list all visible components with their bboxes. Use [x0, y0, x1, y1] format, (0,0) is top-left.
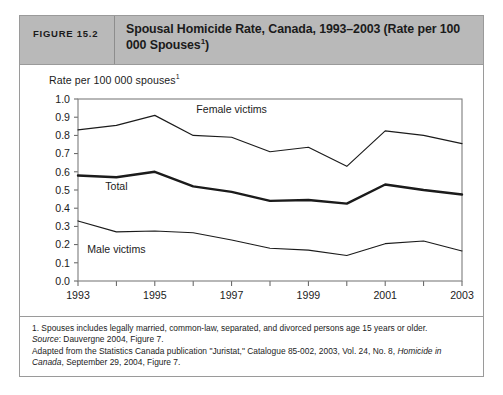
- footnote-source: Source: Dauvergne 2004, Figure 7.: [32, 334, 471, 346]
- y-axis-caption-text: Rate per 100 000 spouses: [49, 74, 176, 86]
- footnote-adapted-prefix: Adapted from the Statistics Canada publi…: [32, 346, 397, 356]
- series-label-total: Total: [105, 180, 127, 192]
- y-axis-caption: Rate per 100 000 spouses1: [49, 74, 180, 86]
- y-axis-tick-label: 0.1: [55, 257, 70, 269]
- footnote-spouses-definition: 1. Spouses includes legally married, com…: [32, 323, 471, 335]
- x-axis-tick-label: 1993: [66, 289, 90, 301]
- figure-header: FIGURE 15.2 Spousal Homicide Rate, Canad…: [20, 16, 483, 65]
- figure-title: Spousal Homicide Rate, Canada, 1993–2003…: [126, 22, 473, 53]
- chart-series-lines: [78, 115, 462, 255]
- y-axis-tick-label: 0.6: [55, 166, 70, 178]
- figure-title-cell: Spousal Homicide Rate, Canada, 1993–2003…: [115, 16, 483, 64]
- footnote-source-label: Source: [32, 334, 59, 344]
- footnote-adapted-suffix: , September 29, 2004, Figure 7.: [61, 357, 180, 367]
- y-axis-tick-label: 0.9: [55, 111, 70, 123]
- y-axis-caption-superscript: 1: [176, 73, 180, 80]
- figure-card: FIGURE 15.2 Spousal Homicide Rate, Canad…: [19, 15, 484, 377]
- figure-title-suffix: ): [205, 38, 209, 52]
- x-axis-tick-labels: 199319951997199920012003: [66, 289, 474, 301]
- series-label-female-victims: Female victims: [196, 103, 267, 115]
- y-axis-tick-label: 0.8: [55, 129, 70, 141]
- figure-number-label: FIGURE 15.2: [33, 28, 98, 39]
- line-chart: 0.00.10.20.30.40.50.60.70.80.91.0 199319…: [34, 91, 474, 311]
- series-label-male-victims: Male victims: [87, 243, 145, 255]
- series-line-female-victims: [78, 115, 462, 166]
- y-axis-tick-label: 0.0: [55, 275, 70, 287]
- chart-svg: 0.00.10.20.30.40.50.60.70.80.91.0 199319…: [34, 91, 474, 311]
- y-axis-tick-label: 0.7: [55, 147, 70, 159]
- x-axis-tick-label: 1995: [143, 289, 167, 301]
- y-axis-tick-label: 0.3: [55, 220, 70, 232]
- x-axis-tick-label: 1997: [220, 289, 244, 301]
- y-axis-tick-label: 0.5: [55, 184, 70, 196]
- x-axis-tick-label: 2001: [373, 289, 397, 301]
- y-axis-tick-label: 0.2: [55, 238, 70, 250]
- footnote-source-text: : Dauvergne 2004, Figure 7.: [59, 334, 164, 344]
- y-axis-tick-labels: 0.00.10.20.30.40.50.60.70.80.91.0: [55, 93, 70, 287]
- footnote-adapted: Adapted from the Statistics Canada publi…: [32, 346, 471, 369]
- series-line-total: [78, 172, 462, 204]
- x-axis-ticks: [78, 281, 462, 286]
- y-axis-ticks: [74, 99, 78, 281]
- figure-plot-area: Rate per 100 000 spouses1 0.00.10.20.30.…: [20, 65, 483, 318]
- x-axis-tick-label: 1999: [297, 289, 321, 301]
- y-axis-tick-label: 0.4: [55, 202, 70, 214]
- figure-number-cell: FIGURE 15.2: [20, 16, 115, 64]
- x-axis-tick-label: 2003: [450, 289, 474, 301]
- y-axis-tick-label: 1.0: [55, 93, 70, 105]
- figure-footnotes: 1. Spouses includes legally married, com…: [20, 316, 483, 376]
- figure-title-text: Spousal Homicide Rate, Canada, 1993–2003…: [126, 22, 460, 52]
